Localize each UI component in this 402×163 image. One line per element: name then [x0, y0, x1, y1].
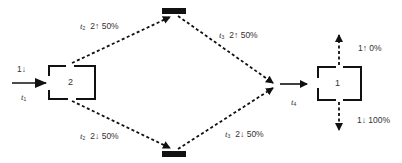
probability: 50% — [241, 30, 258, 40]
merge-time-label: t4 — [291, 97, 296, 109]
time-sub: 3 — [228, 133, 231, 139]
lower-second-leg-label: t32↓ 50% — [225, 129, 264, 141]
box-1-label: 1 — [335, 78, 340, 88]
upper-first-leg-label: t22↑ 50% — [80, 21, 119, 33]
state: 2↓ — [90, 131, 99, 141]
time-sub: 2 — [83, 25, 86, 31]
time-sub: 1 — [24, 96, 27, 102]
probability: 0% — [369, 43, 381, 53]
box-2-label: 2 — [68, 77, 73, 87]
input-state-label: 1↓ — [17, 64, 26, 74]
diagram-canvas — [0, 0, 402, 163]
time-sub: 4 — [294, 101, 297, 107]
probability: 100% — [368, 115, 390, 125]
upper-second-leg-arrow — [178, 16, 273, 83]
state: 2↑ — [90, 21, 99, 31]
probability: 50% — [247, 129, 264, 139]
probability: 50% — [102, 131, 119, 141]
time-sub: 2 — [83, 135, 86, 141]
state: 2↓ — [235, 129, 244, 139]
state: 1↓ — [357, 115, 366, 125]
upper-second-leg-label: t32↑ 50% — [219, 30, 258, 42]
bar-top — [162, 8, 186, 14]
bar-bottom — [162, 151, 186, 157]
probability: 50% — [102, 21, 119, 31]
state: 2↑ — [229, 30, 238, 40]
input-time-label: t1 — [21, 92, 26, 104]
output-down-label: 1↓ 100% — [357, 115, 390, 125]
output-up-label: 1↑ 0% — [358, 43, 382, 53]
time-sub: 3 — [222, 34, 225, 40]
state: 1↑ — [358, 43, 367, 53]
lower-first-leg-label: t22↓ 50% — [80, 131, 119, 143]
